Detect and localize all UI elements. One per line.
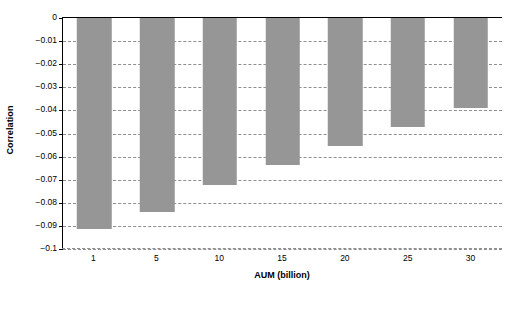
bar-slot xyxy=(314,18,377,248)
y-axis-tick-mark xyxy=(59,249,63,250)
bar-slot xyxy=(126,18,189,248)
x-axis-tick-label: 5 xyxy=(125,253,188,269)
y-axis-tick-label: −0.03 xyxy=(35,81,57,91)
y-axis-tick-label: −0.04 xyxy=(35,104,57,114)
x-axis-tick-label: 10 xyxy=(188,253,251,269)
y-axis-tick-label: −0.05 xyxy=(35,128,57,138)
y-axis-tick-label: −0.06 xyxy=(35,151,57,161)
bars-layer xyxy=(63,18,502,248)
x-axis-baseline xyxy=(62,248,502,249)
x-axis-tick-labels: 151015202530 xyxy=(62,253,502,269)
x-axis-tick-label: 30 xyxy=(439,253,502,269)
y-axis-tick-label: −0.07 xyxy=(35,174,57,184)
bar-slot xyxy=(188,18,251,248)
gridline xyxy=(63,249,502,250)
y-axis-tick-label: 0 xyxy=(52,12,57,22)
bar[interactable] xyxy=(203,18,237,185)
bar[interactable] xyxy=(265,18,299,165)
y-axis-tick-label: −0.1 xyxy=(40,243,57,253)
bar[interactable] xyxy=(391,18,425,127)
x-axis-tick-label: 20 xyxy=(313,253,376,269)
bar[interactable] xyxy=(140,18,174,212)
bar-chart: Correlation 0−0.01−0.02−0.03−0.04−0.05−0… xyxy=(0,0,510,309)
x-axis-title: AUM (billion) xyxy=(62,270,502,280)
bar[interactable] xyxy=(328,18,362,146)
x-axis-tick-label: 25 xyxy=(376,253,439,269)
x-axis-tick-label: 15 xyxy=(251,253,314,269)
x-axis-tick-label: 1 xyxy=(62,253,125,269)
bar-slot xyxy=(439,18,502,248)
y-axis-tick-label: −0.01 xyxy=(35,35,57,45)
y-axis-tick-label: −0.08 xyxy=(35,197,57,207)
y-axis-tick-label: −0.09 xyxy=(35,220,57,230)
bar[interactable] xyxy=(453,18,487,108)
bar[interactable] xyxy=(77,18,111,229)
bar-slot xyxy=(63,18,126,248)
y-axis-title: Correlation xyxy=(0,0,20,260)
y-axis-tick-labels: 0−0.01−0.02−0.03−0.04−0.05−0.06−0.07−0.0… xyxy=(20,17,62,248)
bar-slot xyxy=(377,18,440,248)
plot-area xyxy=(62,17,502,248)
bar-slot xyxy=(251,18,314,248)
y-axis-tick-label: −0.02 xyxy=(35,58,57,68)
y-axis-title-text: Correlation xyxy=(5,105,15,154)
